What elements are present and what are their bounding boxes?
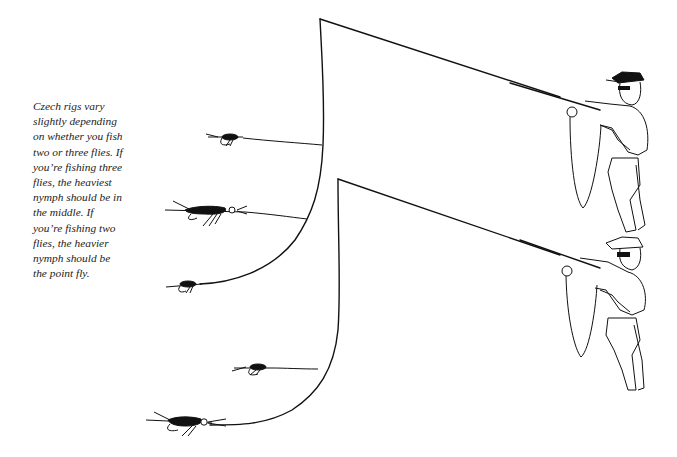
leader-top [200,19,324,284]
dropper-1 [243,138,322,145]
point-nymph-fly-icon [166,281,202,293]
dropper-2 [245,212,307,219]
heavy-nymph-fly-icon [165,201,247,226]
rig-diagram [0,0,677,457]
rod-icon [520,240,600,268]
three-fly-rig [165,19,560,293]
heavy-nymph-fly-icon [146,412,226,436]
angler-figure-bottom [520,237,645,390]
nymph-fly-icon [232,364,272,375]
rod-icon [510,83,600,110]
two-fly-rig [146,179,560,436]
nymph-fly-icon [206,134,243,146]
slack-line-loop [570,117,601,208]
angler-figure-top [510,72,648,232]
leader-bottom [210,179,339,425]
fly-line-bottom [338,179,560,255]
slack-line-loop [566,276,597,357]
dropper-3 [272,368,318,369]
fly-line-top [320,19,560,97]
